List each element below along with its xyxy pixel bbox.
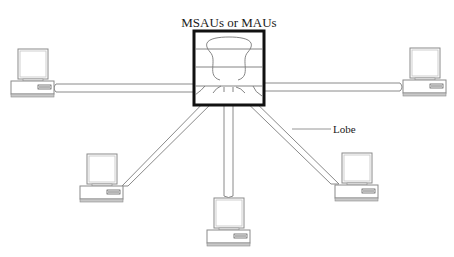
- hub-title: MSAUs or MAUs: [181, 15, 276, 30]
- workstation-lower-left-icon: [80, 154, 123, 202]
- lobe-label: Lobe: [333, 123, 356, 135]
- msau-hub: [194, 31, 264, 105]
- workstation-right-icon: [403, 48, 446, 96]
- workstation-lower-right-icon: [335, 153, 378, 201]
- workstation-left-icon: [11, 49, 54, 97]
- token-ring-diagram: MSAUs or MAUs Lobe: [0, 0, 454, 257]
- workstation-bottom-icon: [207, 198, 250, 246]
